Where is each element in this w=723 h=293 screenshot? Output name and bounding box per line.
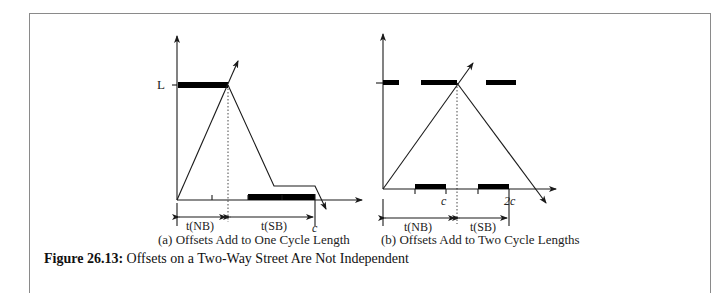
- panel-b-caption: (b) Offsets Add to Two Cycle Lengths: [381, 232, 580, 248]
- panel-b-green-band-downstream-1: [415, 184, 446, 189]
- figure-title: Offsets on a Two-Way Street Are Not Inde…: [127, 251, 409, 266]
- panel-b-green-band-upstream-2: [421, 80, 457, 85]
- panel-a-caption: (a) Offsets Add to One Cycle Length: [158, 232, 350, 248]
- panel-a-nb-trajectory: [177, 61, 238, 200]
- panel-b-green-band-downstream-2: [478, 184, 509, 189]
- panel-b-diagram: [376, 34, 556, 226]
- panel-b-cycle-label: c: [441, 194, 446, 209]
- panel-b-green-band-upstream-1: [383, 80, 399, 85]
- figure-caption: Figure 26.13: Offsets on a Two-Way Stree…: [44, 251, 409, 267]
- panel-a-level-label: L: [157, 77, 165, 93]
- panel-b-two-cycle-label: 2c: [504, 194, 515, 209]
- figure-number: Figure 26.13:: [44, 251, 123, 266]
- panel-b-green-band-upstream-3: [486, 80, 516, 85]
- panel-a-green-band-upstream: [178, 82, 228, 88]
- panel-a-sb-trajectory: [228, 85, 326, 209]
- panel-a-diagram: [172, 36, 362, 226]
